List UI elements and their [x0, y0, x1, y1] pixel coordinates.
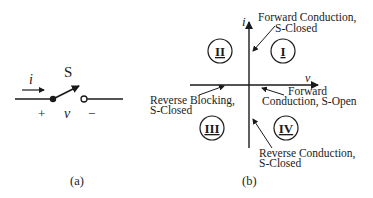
- caption-a: (a): [70, 174, 84, 188]
- quadrant-III-label: III: [204, 121, 219, 136]
- annotation-forward-open-line2: Conduction, S-Open: [262, 95, 357, 108]
- quadrant-III: III: [200, 116, 224, 140]
- pointer-forward-open: [262, 88, 284, 95]
- panel-b-quadrants: i v II I III IV Forward Conduction, S-Cl…: [150, 11, 357, 188]
- panel-a-switch: S i + v − (a): [15, 64, 123, 188]
- axis-i-label: i: [242, 14, 246, 29]
- voltage-label: v: [64, 106, 71, 121]
- annotation-reverse-conduction-line2: S-Closed: [259, 157, 301, 169]
- switch-label: S: [64, 64, 72, 80]
- annotation-forward-closed-line2: S-Closed: [275, 22, 317, 34]
- quadrant-II: II: [208, 39, 232, 63]
- quadrant-IV: IV: [274, 116, 298, 140]
- quadrant-II-label: II: [215, 44, 225, 59]
- switch-blade-arrow: [53, 86, 79, 99]
- pointer-reverse-conduction: [253, 119, 272, 148]
- annotation-reverse-blocking-line2: S-Closed: [150, 104, 192, 116]
- quadrant-IV-label: IV: [279, 121, 294, 136]
- switch-contact-open: [81, 96, 87, 102]
- quadrant-I: I: [271, 39, 295, 63]
- axis-v-label: v: [305, 71, 311, 85]
- minus-label: −: [88, 106, 95, 121]
- diagram-canvas: S i + v − (a) i v II I III IV Forward C: [0, 0, 373, 198]
- current-label: i: [29, 72, 33, 87]
- caption-b: (b): [242, 174, 257, 188]
- plus-label: +: [38, 106, 45, 121]
- quadrant-I-label: I: [280, 44, 285, 59]
